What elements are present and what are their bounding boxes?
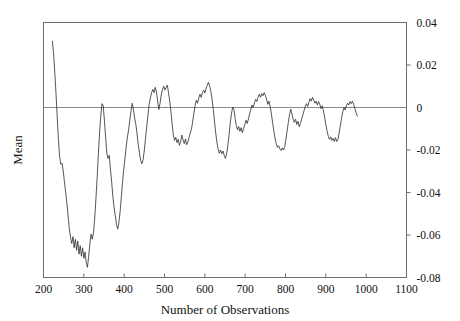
x-tick-label-200: 200 bbox=[35, 283, 53, 295]
y-tick-label-0.02: 0.02 bbox=[417, 59, 437, 71]
x-axis-title: Number of Observations bbox=[161, 302, 290, 317]
x-axis-tick-labels: 20030040050060070080090010001100 bbox=[35, 283, 418, 295]
y-tick-label-0: 0 bbox=[417, 102, 423, 114]
mean-series-line bbox=[52, 41, 357, 267]
x-tick-label-800: 800 bbox=[277, 283, 295, 295]
plot-frame bbox=[44, 23, 407, 278]
x-tick-label-500: 500 bbox=[156, 283, 174, 295]
x-tick-label-400: 400 bbox=[116, 283, 134, 295]
y-tick-label--0.02: -0.02 bbox=[417, 144, 441, 156]
x-tick-label-300: 300 bbox=[75, 283, 93, 295]
x-axis-ticks bbox=[84, 274, 366, 278]
y-axis-ticks bbox=[407, 65, 411, 235]
x-tick-label-1000: 1000 bbox=[355, 283, 378, 295]
chart-figure: 20030040050060070080090010001100 0.040.0… bbox=[0, 0, 460, 321]
x-tick-label-1100: 1100 bbox=[395, 283, 418, 295]
y-tick-label--0.04: -0.04 bbox=[417, 187, 441, 199]
y-tick-label-0.04: 0.04 bbox=[417, 17, 437, 29]
x-tick-label-600: 600 bbox=[196, 283, 214, 295]
y-axis-tick-labels: 0.040.020-0.02-0.04-0.06-0.08 bbox=[417, 17, 441, 284]
chart-canvas: 20030040050060070080090010001100 0.040.0… bbox=[0, 0, 460, 321]
y-axis-title: Mean bbox=[10, 135, 25, 165]
x-tick-label-900: 900 bbox=[317, 283, 335, 295]
x-tick-label-700: 700 bbox=[237, 283, 255, 295]
y-tick-label--0.08: -0.08 bbox=[417, 272, 441, 284]
y-tick-label--0.06: -0.06 bbox=[417, 229, 441, 241]
